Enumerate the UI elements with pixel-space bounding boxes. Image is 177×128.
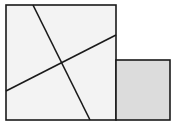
dissection-diagram: [0, 0, 177, 128]
small-square: [116, 60, 170, 120]
